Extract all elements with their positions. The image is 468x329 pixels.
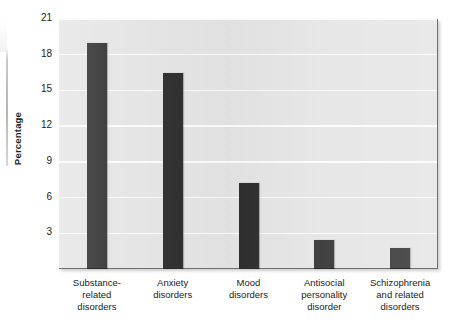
x-tick-label: Anxietydisorders (131, 277, 215, 301)
x-tick-label-line: disorders (358, 301, 442, 313)
y-tick-3: 3 (6, 226, 52, 237)
bar-2 (163, 73, 183, 269)
gridline (59, 18, 437, 20)
gridline (59, 90, 437, 92)
y-tick-12: 12 (6, 119, 52, 130)
x-tick-label-line: Antisocial (282, 277, 366, 289)
x-tick-label-line: disorders (131, 289, 215, 301)
gridline (59, 125, 437, 127)
x-tick-label-line: disorders (207, 289, 291, 301)
x-tick-label: Schizophreniaand relateddisorders (358, 277, 442, 313)
bar-1 (87, 43, 107, 269)
y-axis-label: Percentage (12, 94, 23, 184)
x-tick-label-line: disorder (282, 301, 366, 313)
gridline (59, 54, 437, 56)
x-tick-label-line: related (55, 289, 139, 301)
bar-5 (390, 248, 410, 269)
x-tick-label: Antisocialpersonalitydisorder (282, 277, 366, 313)
x-tick-label-line: Anxiety (131, 277, 215, 289)
x-tick-label-line: Substance- (55, 277, 139, 289)
x-tick-label-line: and related (358, 289, 442, 301)
page-scan-artifact-line (6, 46, 8, 166)
gridline (59, 161, 437, 163)
y-tick-6: 6 (6, 191, 52, 202)
plot-area (59, 19, 438, 269)
y-tick-18: 18 (6, 48, 52, 59)
bar-chart-figure: Percentage 21181512963 Substance-related… (0, 0, 468, 329)
bar-3 (239, 183, 259, 269)
x-tick-label: Substance-relateddisorders (55, 277, 139, 313)
y-tick-9: 9 (6, 155, 52, 166)
x-tick-label-line: personality (282, 289, 366, 301)
y-tick-21: 21 (6, 12, 52, 23)
x-tick-label-line: Mood (207, 277, 291, 289)
plot-inner (59, 19, 437, 268)
x-tick-label-line: disorders (55, 301, 139, 313)
x-tick-label-line: Schizophrenia (358, 277, 442, 289)
bar-4 (314, 240, 334, 269)
y-tick-15: 15 (6, 83, 52, 94)
x-tick-label: Mooddisorders (207, 277, 291, 301)
